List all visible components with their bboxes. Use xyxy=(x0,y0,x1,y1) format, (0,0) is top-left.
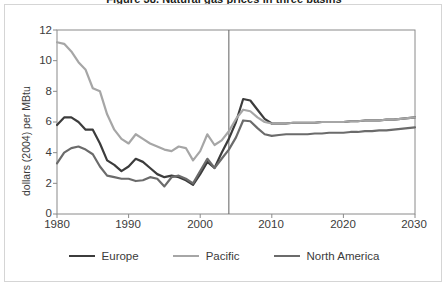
x-tick-label: 2010 xyxy=(246,218,296,230)
chart-legend: Europe Pacific North America xyxy=(0,250,448,262)
figure-container: Figure 38. Natural gas prices in three b… xyxy=(0,0,448,295)
legend-item-europe[interactable]: Europe xyxy=(69,250,139,262)
x-tick-label: 2020 xyxy=(318,218,368,230)
legend-swatch-europe xyxy=(69,255,95,257)
y-axis-title: dollars (2004) per MBtu xyxy=(20,86,32,196)
legend-item-pacific[interactable]: Pacific xyxy=(173,250,240,262)
legend-label-north-america: North America xyxy=(307,250,380,262)
x-tick-label: 1990 xyxy=(103,218,153,230)
legend-swatch-pacific xyxy=(173,255,199,257)
legend-label-pacific: Pacific xyxy=(206,250,240,262)
series-line-north-america xyxy=(57,120,415,186)
y-tick-label: 12 xyxy=(18,24,52,36)
y-tick-label: 10 xyxy=(18,54,52,66)
series-line-europe xyxy=(57,99,415,185)
x-tick-label: 2000 xyxy=(175,218,225,230)
legend-item-north-america[interactable]: North America xyxy=(274,250,380,262)
legend-swatch-north-america xyxy=(274,255,300,257)
x-tick-label: 2030 xyxy=(389,218,439,230)
x-tick-label: 1980 xyxy=(32,218,82,230)
legend-label-europe: Europe xyxy=(102,250,139,262)
series-line-pacific xyxy=(57,42,415,160)
